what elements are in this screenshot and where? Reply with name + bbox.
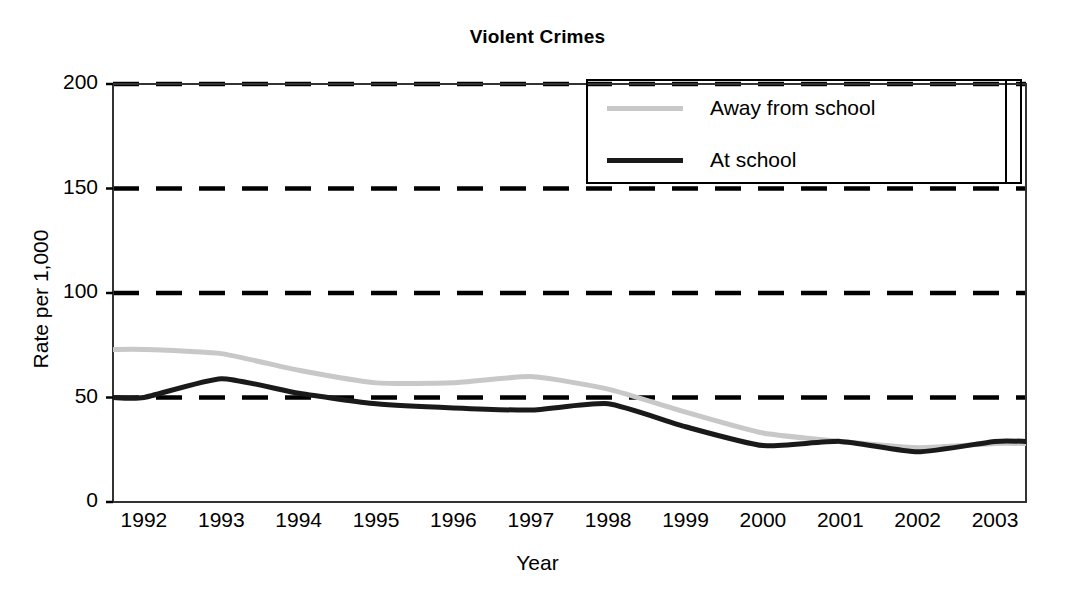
legend-entry-away-from-school: Away from school bbox=[607, 96, 875, 120]
y-tick-label-0: 0 bbox=[0, 488, 98, 512]
x-axis-title: Year bbox=[0, 551, 1075, 575]
data-series bbox=[113, 349, 1026, 452]
legend-label: At school bbox=[710, 148, 796, 172]
chart-figure: Violent Crimes 050100150200 199219931994… bbox=[0, 0, 1075, 607]
series-line-at-school bbox=[113, 379, 1026, 452]
y-axis-title: Rate per 1,000 bbox=[29, 189, 53, 409]
legend-entry-at-school: At school bbox=[607, 148, 796, 172]
legend-label: Away from school bbox=[710, 96, 875, 120]
legend-swatch-away-from-school bbox=[607, 106, 683, 111]
y-tick-label-200: 200 bbox=[0, 70, 98, 94]
legend-divider bbox=[1005, 79, 1007, 184]
legend-swatch-at-school bbox=[607, 158, 683, 163]
x-tick-label-2003: 2003 bbox=[950, 508, 1040, 532]
axis-ticks bbox=[106, 84, 113, 502]
